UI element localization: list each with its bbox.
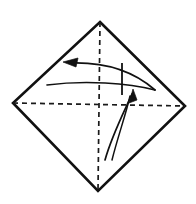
origami-diagram xyxy=(0,0,196,204)
canvas-background xyxy=(0,0,196,204)
diagram-canvas xyxy=(0,0,196,204)
